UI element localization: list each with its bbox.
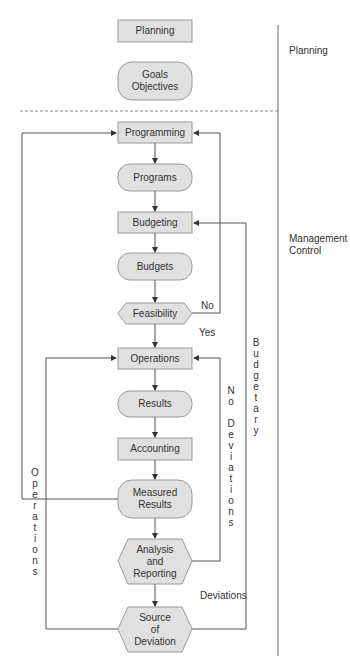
edge-operations-outer [22,133,118,499]
edge-no-deviations [192,358,220,561]
section-planning: Planning [289,45,328,57]
edge-label-budgetary: B u d g e t a r y [251,337,261,436]
label-analysis-reporting: Analysis and Reporting [118,544,192,580]
label-accounting: Accounting [118,443,192,455]
edge-label-no: No [201,300,214,312]
label-measured-results: Measured Results [118,487,192,511]
edge-label-deviations: Deviations [200,590,247,602]
label-programs: Programs [118,172,192,184]
edge-budgetary [192,223,246,629]
label-results: Results [118,398,192,410]
label-feasibility: Feasibility [118,308,192,320]
label-operations: Operations [118,353,192,365]
edge-operations [46,358,118,629]
label-budgets: Budgets [118,261,192,273]
label-planning: Planning [118,25,192,37]
label-goals: Goals Objectives [118,69,192,93]
section-management-control: Management Control [289,233,347,257]
edge-label-yes: Yes [199,327,215,339]
label-programming: Programming [118,127,192,139]
edge-label-operations: O p e r a t i o n s [30,467,40,577]
label-source-of-deviation: Source of Deviation [118,612,192,648]
edge-label-no-deviations: N o D e v i a t i o n s [226,385,236,528]
label-budgeting: Budgeting [118,217,192,229]
